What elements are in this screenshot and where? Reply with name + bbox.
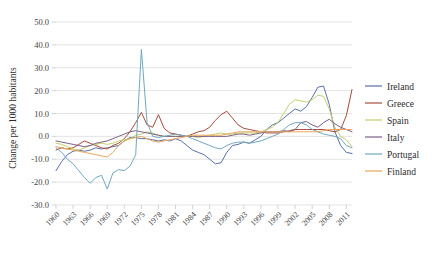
- y-tick-label: 50.0: [34, 17, 49, 27]
- legend-label-finland: Finland: [387, 167, 416, 177]
- x-tick-label: 1984: [180, 210, 198, 228]
- x-tick-label: 1990: [215, 210, 233, 228]
- x-tick-label: 1996: [249, 210, 267, 228]
- legend-label-greece: Greece: [387, 99, 414, 109]
- x-tick-label: 2002: [283, 210, 301, 228]
- chart-legend: IrelandGreeceSpainItalyPortugalFinland: [365, 82, 420, 177]
- legend-label-portugal: Portugal: [387, 150, 420, 160]
- x-tick-label: 1987: [197, 210, 215, 228]
- x-tick-label: 1993: [232, 210, 250, 228]
- gridlines-group: [56, 22, 352, 205]
- y-tick-label: -20.0: [31, 177, 49, 187]
- y-tick-label: -10.0: [31, 154, 49, 164]
- series-lines-group: [56, 49, 352, 189]
- y-tick-label: 20.0: [34, 86, 49, 96]
- legend-label-spain: Spain: [387, 116, 409, 126]
- x-tick-label: 2011: [334, 210, 351, 227]
- y-tick-label: 40.0: [34, 40, 49, 50]
- x-tick-label: 1972: [112, 210, 130, 228]
- x-tick-label: 1999: [266, 210, 284, 228]
- x-axis-tick-labels: 1960196319661969197219751978198119841987…: [44, 210, 352, 228]
- y-tick-label: 30.0: [34, 63, 49, 73]
- x-tick-label: 1978: [146, 210, 164, 228]
- legend-label-ireland: Ireland: [387, 82, 414, 92]
- series-line-greece: [56, 89, 352, 150]
- x-tick-label: 1975: [129, 210, 147, 228]
- x-tick-label: 1969: [95, 210, 113, 228]
- y-tick-label: 0.0: [38, 131, 49, 141]
- chart-canvas: 50.040.030.020.010.00.0-10.0-20.0-30.0 1…: [0, 0, 442, 256]
- series-line-italy: [56, 119, 352, 146]
- x-tick-label: 1966: [78, 210, 96, 228]
- legend-label-italy: Italy: [387, 133, 405, 143]
- x-tick-label: 2008: [317, 210, 335, 228]
- x-tick-label: 1963: [61, 210, 79, 228]
- line-chart: 50.040.030.020.010.00.0-10.0-20.0-30.0 1…: [0, 0, 442, 256]
- y-axis-title: Change per 1000 habitants: [8, 67, 18, 169]
- series-line-ireland: [56, 86, 352, 171]
- tickmarks-group: [52, 22, 346, 209]
- y-tick-label: 10.0: [34, 109, 49, 119]
- x-tick-label: 1960: [44, 210, 62, 228]
- y-axis-tick-labels: 50.040.030.020.010.00.0-10.0-20.0-30.0: [31, 17, 49, 210]
- x-tick-label: 2005: [300, 210, 318, 228]
- series-line-portugal: [56, 49, 352, 189]
- x-tick-label: 1981: [163, 210, 181, 228]
- y-tick-label: -30.0: [31, 200, 49, 210]
